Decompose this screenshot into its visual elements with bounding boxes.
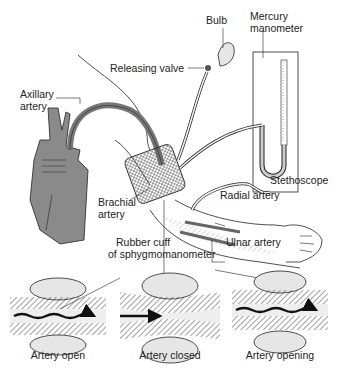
panel-artery-open — [10, 278, 106, 355]
label-mercury-manometer-2: manometer — [250, 22, 303, 34]
label-axillary-artery-1: Axillary — [20, 88, 54, 100]
heart-illustration — [30, 108, 88, 244]
label-releasing-valve: Releasing valve — [110, 62, 184, 74]
label-axillary-artery-2: artery — [20, 100, 47, 112]
panel-artery-opening — [232, 271, 328, 353]
mercury-manometer — [180, 52, 298, 192]
label-ulnar-artery: Ulnar artery — [226, 236, 281, 248]
bulb-illustration — [205, 43, 234, 71]
label-mercury-manometer-1: Mercury — [250, 10, 288, 22]
label-radial-artery: Radial artery — [220, 189, 280, 201]
label-rubber-cuff-2: of sphygmomanometer — [108, 248, 215, 260]
caption-artery-closed: Artery closed — [115, 349, 225, 361]
label-brachial-artery-1: Brachial — [98, 196, 136, 208]
caption-artery-open: Artery open — [3, 349, 113, 361]
label-rubber-cuff-1: Rubber cuff — [116, 236, 170, 248]
label-bulb: Bulb — [206, 14, 227, 26]
label-stethoscope: Stethoscope — [270, 174, 328, 186]
caption-artery-opening: Artery opening — [225, 349, 335, 361]
label-brachial-artery-2: artery — [98, 208, 125, 220]
